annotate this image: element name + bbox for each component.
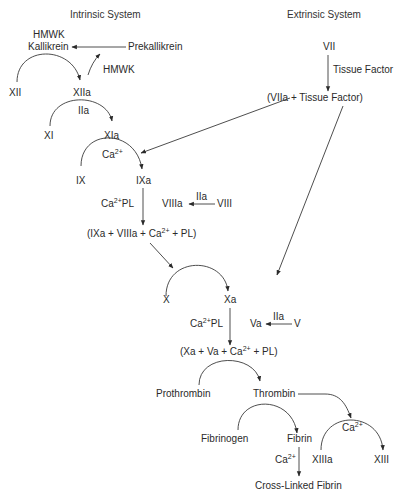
arc-x-to-xa [166,265,228,296]
intrinsic-system-header: Intrinsic System [70,9,141,20]
label-hmwk: HMWK [103,64,135,75]
label-x: X [163,294,170,305]
coagulation-cascade-diagram: Intrinsic System Extrinsic System HMWK K… [0,0,404,498]
label-xiia: XIIa [73,87,91,98]
label-iia-2: IIa [196,191,208,202]
label-ca-3: Ca2+ [275,453,296,465]
label-fibrin: Fibrin [287,433,312,444]
label-xiii: XIII [374,454,389,465]
label-va: Va [250,318,262,329]
label-fibrinogen: Fibrinogen [201,433,248,444]
label-v: V [294,318,301,329]
label-ixa: IXa [136,175,151,186]
label-prothrombinase-complex: (Xa + Va + Ca2+ + PL) [180,345,278,357]
label-xiiia: XIIIa [312,454,333,465]
arrow-tenase-to-x [150,243,173,268]
label-xii: XII [9,87,21,98]
label-viii: VIII [217,198,232,209]
label-ca-pl-1: Ca2+PL [101,197,134,209]
label-xi: XI [44,130,53,141]
arc-xii-to-xiia [17,54,80,82]
arrow-hmwk-curve [88,54,100,75]
label-prekallikrein: Prekallikrein [128,41,182,52]
label-vii: VII [323,41,335,52]
label-prothrombin: Prothrombin [156,388,210,399]
label-hmwk-top: HMWK [33,29,65,40]
arc-prothrombin-to-thrombin [199,360,260,385]
label-tenase-complex: (IXa + VIIIa + Ca2+ + PL) [87,227,196,239]
label-xa: Xa [224,294,237,305]
label-ix: IX [76,175,86,186]
arrow-extrinsic-to-ixa [141,98,290,153]
label-ca-4: Ca2+ [342,421,363,433]
label-ca-pl-2: Ca2+PL [190,317,223,329]
extrinsic-system-header: Extrinsic System [287,9,361,20]
label-tissue-factor: Tissue Factor [333,64,394,75]
arc-fibrinogen-to-fibrin [238,404,297,433]
label-cross-linked-fibrin: Cross-Linked Fibrin [255,480,342,491]
label-iia-1: IIa [78,105,90,116]
label-iia-3: IIa [273,311,285,322]
label-kallikrein: Kallikrein [28,41,69,52]
arrow-extrinsic-to-xa [277,106,343,275]
label-ca-1: Ca2+ [102,148,123,160]
label-thrombin: Thrombin [253,388,295,399]
label-viiia: VIIIa [162,198,183,209]
arrow-thrombin-to-xiii-activation [298,394,351,418]
